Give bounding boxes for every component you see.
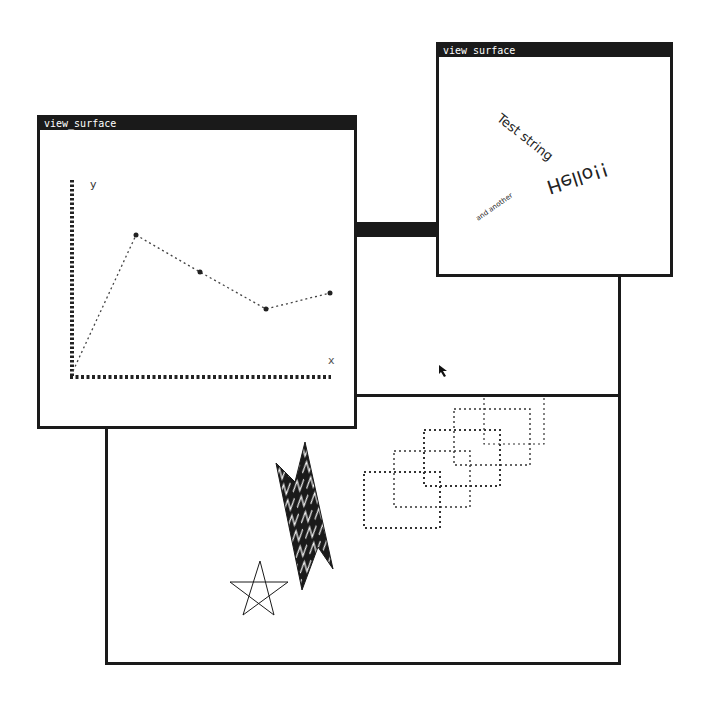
star-shape	[230, 561, 288, 615]
shapes-canvas	[108, 397, 624, 668]
hello-text: Hello!!	[544, 158, 611, 199]
plot-window[interactable]: view_surface y x	[37, 115, 357, 429]
lightning-bolt-shape	[276, 442, 333, 590]
dotted-rectangles	[364, 397, 544, 528]
x-axis-label: x	[328, 354, 335, 367]
y-axis-label: y	[90, 178, 97, 191]
data-markers	[134, 233, 333, 312]
text-canvas: Test string and another Hello!!	[439, 45, 676, 280]
mouse-cursor-icon	[438, 364, 450, 378]
shapes-window[interactable]	[105, 394, 621, 665]
data-line	[73, 235, 330, 371]
and-another-text: and another	[475, 191, 515, 222]
line-chart: y x	[40, 118, 360, 432]
test-string-text: Test string	[493, 110, 556, 164]
text-window[interactable]: view surface Test string and another Hel…	[436, 42, 673, 277]
